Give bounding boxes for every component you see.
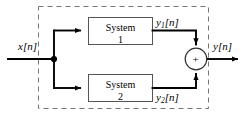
system-1-output-index: [n] <box>165 16 179 28</box>
wire-system-1-to-adder <box>153 31 197 45</box>
block-diagram-canvas: + x[n] System 1 System 2 y1[n] y2[n] y[n… <box>0 0 246 117</box>
input-signal-index: [n] <box>23 40 37 52</box>
plus-sign: + <box>193 54 199 65</box>
output-signal-label: y[n] <box>213 41 232 52</box>
branch-node <box>51 56 57 62</box>
system-2-output-label: y2[n] <box>156 92 179 105</box>
system-2-label: System 2 <box>89 79 153 102</box>
input-signal-label: x[n] <box>18 41 37 52</box>
output-signal-index: [n] <box>218 40 232 52</box>
system-1-label-line1: System <box>89 22 153 34</box>
system-2-output-index: [n] <box>165 91 179 103</box>
system-2-label-line2: 2 <box>89 91 153 103</box>
system-1-label-line2: 1 <box>89 34 153 46</box>
system-2-label-line1: System <box>89 79 153 91</box>
system-1-label: System 1 <box>89 22 153 45</box>
wire-system-2-to-adder <box>153 74 197 88</box>
system-1-output-label: y1[n] <box>156 17 179 30</box>
